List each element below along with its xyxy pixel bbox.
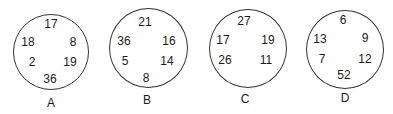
circle-b-lower-right: 14 <box>160 55 173 67</box>
circle-d-lower-left: 7 <box>319 53 326 65</box>
circle-d-upper-right: 9 <box>362 32 369 44</box>
circle-a-bottom: 36 <box>43 73 56 85</box>
circle-a-label: A <box>47 97 55 109</box>
circle-d-lower-right: 12 <box>358 53 371 65</box>
circle-b-bottom: 8 <box>143 72 150 84</box>
circle-b-lower-left: 5 <box>122 55 129 67</box>
circle-a-upper-right: 8 <box>70 36 77 48</box>
circle-b-label: B <box>143 94 151 106</box>
circle-c-upper-right: 19 <box>261 34 274 46</box>
circle-a-top: 17 <box>44 18 57 30</box>
circle-c-upper-left: 17 <box>216 34 229 46</box>
circle-d-upper-left: 13 <box>313 33 326 45</box>
circle-d-label: D <box>341 92 350 104</box>
circle-c-lower-right: 11 <box>260 54 272 66</box>
circle-a-lower-left: 2 <box>29 56 36 68</box>
circle-a-lower-right: 19 <box>63 56 76 68</box>
circle-c-top: 27 <box>237 15 250 27</box>
circle-b-upper-right: 16 <box>162 35 175 47</box>
circle-c-label: C <box>241 93 250 105</box>
circle-a-upper-left: 18 <box>21 36 34 48</box>
circle-b-upper-left: 36 <box>117 35 130 47</box>
circle-d-top: 6 <box>340 14 347 26</box>
circle-c-lower-left: 26 <box>218 54 231 66</box>
circle-b-top: 21 <box>138 16 151 28</box>
circle-d-bottom: 52 <box>337 69 350 81</box>
